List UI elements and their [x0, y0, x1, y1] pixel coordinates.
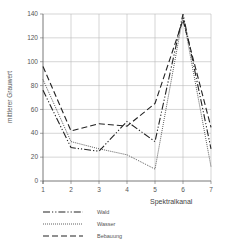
y-tick-label: 0 — [34, 177, 38, 184]
y-tick-label: 100 — [27, 58, 38, 65]
y-tick-label: 80 — [31, 82, 39, 89]
x-tick-label: 2 — [69, 186, 73, 193]
line-chart: 020406080100120140 1234567 mittlerer Gra… — [0, 0, 225, 247]
x-axis-label: Spektralkanal — [150, 198, 193, 206]
y-tick-label: 20 — [31, 153, 39, 160]
x-tick-label: 6 — [181, 186, 185, 193]
legend-label-wasser: Wasser — [97, 221, 116, 227]
x-tick-label: 3 — [97, 186, 101, 193]
y-axis-ticks: 020406080100120140 — [27, 10, 43, 184]
y-tick-label: 40 — [31, 129, 39, 136]
chart-grid — [43, 14, 211, 181]
x-tick-label: 7 — [209, 186, 213, 193]
chart-legend: WaldWasserBebauung — [43, 209, 122, 239]
x-tick-label: 4 — [125, 186, 129, 193]
y-axis-label: mittlerer Grauwert — [6, 71, 13, 123]
legend-label-wald: Wald — [97, 209, 109, 215]
legend-label-bebauung: Bebauung — [97, 233, 122, 239]
y-tick-label: 60 — [31, 106, 39, 113]
y-tick-label: 140 — [27, 10, 38, 17]
y-tick-label: 120 — [27, 34, 38, 41]
x-tick-label: 5 — [153, 186, 157, 193]
x-axis-ticks: 1234567 — [41, 181, 213, 193]
x-tick-label: 1 — [41, 186, 45, 193]
